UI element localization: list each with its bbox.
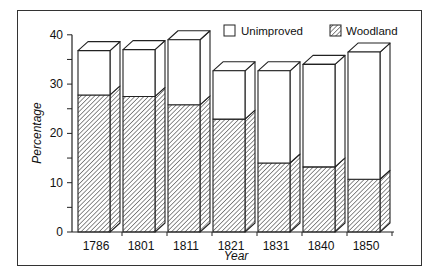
bar-segment-woodland xyxy=(348,179,380,232)
bar-segment-woodland xyxy=(123,96,155,232)
bar-side-woodland xyxy=(290,154,300,232)
bar-1821 xyxy=(213,62,255,232)
y-tick-label: 10 xyxy=(50,176,64,190)
bar-segment-woodland xyxy=(168,105,200,232)
bar-side-woodland xyxy=(335,158,345,232)
bar-1831 xyxy=(258,62,300,232)
bar-side-unimproved xyxy=(290,62,300,163)
y-axis-title: Percentage xyxy=(30,102,44,164)
bar-segment-unimproved xyxy=(78,51,110,95)
legend-label-woodland: Woodland xyxy=(346,25,398,37)
bar-1850 xyxy=(348,43,390,232)
legend: Unimproved Woodland xyxy=(224,25,398,37)
y-tick-label: 40 xyxy=(50,28,64,42)
x-tick-label: 1786 xyxy=(83,239,110,253)
bar-side-unimproved xyxy=(200,31,210,105)
x-tick-label: 1831 xyxy=(263,239,290,253)
x-tick-label: 1850 xyxy=(353,239,380,253)
bar-segment-unimproved xyxy=(213,71,245,119)
bar-side-woodland xyxy=(245,110,255,232)
bar-1786 xyxy=(78,42,120,232)
y-tick-label: 20 xyxy=(50,126,64,140)
bar-1840 xyxy=(303,55,345,232)
bar-side-woodland xyxy=(110,86,120,232)
bar-segment-unimproved xyxy=(258,71,290,163)
bar-side-unimproved xyxy=(335,55,345,167)
bar-segment-unimproved xyxy=(123,50,155,97)
bar-side-woodland xyxy=(155,87,165,232)
bar-segment-unimproved xyxy=(168,40,200,105)
bar-1801 xyxy=(123,41,165,232)
bar-side-unimproved xyxy=(380,43,390,179)
bar-segment-unimproved xyxy=(303,64,335,167)
x-tick-label: 1801 xyxy=(128,239,155,253)
x-tick-label: 1811 xyxy=(173,239,199,253)
x-tick-label: 1840 xyxy=(308,239,335,253)
bar-segment-unimproved xyxy=(348,52,380,179)
bars-group xyxy=(78,31,390,232)
bar-1811 xyxy=(168,31,210,232)
legend-label-unimproved: Unimproved xyxy=(241,25,303,37)
legend-swatch-unimproved xyxy=(224,25,235,36)
bar-segment-woodland xyxy=(78,95,110,232)
bar-side-woodland xyxy=(200,96,210,232)
stacked-3d-bar-chart: 010203040 1786180118111821183118401850 P… xyxy=(0,0,440,280)
bar-segment-woodland xyxy=(258,163,290,232)
y-tick-label: 0 xyxy=(56,225,63,239)
bar-segment-woodland xyxy=(303,167,335,232)
x-axis-title: Year xyxy=(224,249,250,263)
bar-side-woodland xyxy=(380,170,390,232)
legend-swatch-woodland xyxy=(330,25,341,36)
bar-segment-woodland xyxy=(213,119,245,232)
bar-side-unimproved xyxy=(245,62,255,119)
y-tick-label: 30 xyxy=(50,77,64,91)
